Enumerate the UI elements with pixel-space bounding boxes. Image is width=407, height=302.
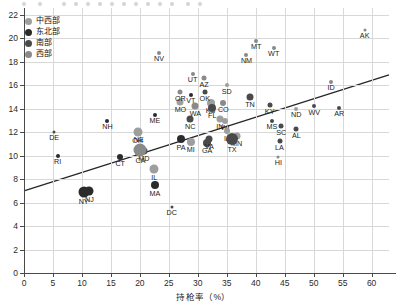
- data-point-label: KY: [265, 108, 275, 115]
- gridline-vertical: [82, 8, 83, 273]
- x-axis-line: [24, 273, 396, 274]
- data-point-label: NJ: [85, 196, 94, 203]
- data-point-label: PA: [176, 144, 185, 151]
- gridline-horizontal: [24, 226, 389, 227]
- data-point-label: VA: [205, 143, 214, 150]
- cropped-legend-dot: [198, 2, 202, 6]
- data-point-label: HI: [275, 159, 282, 166]
- x-axis-tick: [343, 273, 344, 277]
- x-axis-tick: [53, 273, 54, 277]
- y-axis-tick-label: 12: [2, 128, 18, 137]
- data-point-label: TX: [227, 146, 236, 153]
- x-axis-tick: [198, 273, 199, 277]
- data-point-label: IL: [151, 174, 157, 181]
- gridline-vertical: [343, 8, 344, 273]
- plot-area: OHILMOKSNEWIINMIIAMNSDNDNYNJMACTRINHMEVT…: [24, 8, 389, 273]
- data-point-label: ND: [291, 111, 301, 118]
- gridline-vertical: [169, 8, 170, 273]
- cropped-legend-dot: [22, 2, 26, 6]
- legend-marker-icon: [25, 51, 32, 58]
- cropped-legend-dot: [186, 2, 190, 6]
- gridline-vertical: [314, 8, 315, 273]
- legend-item-label: 中西部: [36, 16, 60, 27]
- y-axis-tick-label: 4: [2, 222, 18, 231]
- y-axis-tick-label: 8: [2, 175, 18, 184]
- legend-item-label: 南部: [36, 38, 52, 49]
- gridline-vertical: [111, 8, 112, 273]
- cropped-legend-dot: [110, 2, 114, 6]
- x-axis-tick: [82, 273, 83, 277]
- y-axis-tick: [20, 226, 24, 227]
- data-point-label: MA: [150, 190, 161, 197]
- data-point-label: ID: [327, 84, 334, 91]
- gridline-vertical: [198, 8, 199, 273]
- data-point-label: CA: [135, 157, 145, 164]
- x-axis-tick-label: 50: [309, 279, 318, 288]
- x-axis-tick: [227, 273, 228, 277]
- legend-item-1[interactable]: 东北部: [25, 27, 60, 38]
- gridline-horizontal: [24, 179, 389, 180]
- cropped-legend-dot: [38, 2, 42, 6]
- legend-item-3[interactable]: 西部: [25, 49, 60, 60]
- x-axis-tick-label: 60: [367, 279, 376, 288]
- gridline-horizontal: [24, 132, 389, 133]
- x-axis-tick-label: 45: [280, 279, 289, 288]
- cropped-legend-dot: [170, 2, 174, 6]
- x-axis-tick-label: 0: [22, 279, 27, 288]
- y-axis-tick: [20, 179, 24, 180]
- y-axis-tick-label: 14: [2, 105, 18, 114]
- data-point: [226, 133, 238, 145]
- data-point-label: CT: [115, 160, 125, 167]
- y-axis-tick-label: 2: [2, 245, 18, 254]
- cropped-top-strip: [0, 0, 407, 7]
- y-axis-tick-label: 0: [2, 269, 18, 278]
- y-axis-tick-label: 6: [2, 198, 18, 207]
- y-axis-tick: [20, 250, 24, 251]
- gridline-horizontal: [24, 38, 389, 39]
- x-axis-tick: [169, 273, 170, 277]
- y-axis-tick-label: 18: [2, 58, 18, 67]
- legend-marker-icon: [25, 40, 32, 47]
- y-axis-tick-label: 22: [2, 11, 18, 20]
- gridline-vertical: [285, 8, 286, 273]
- gridline-horizontal: [24, 156, 389, 157]
- x-axis-tick: [256, 273, 257, 277]
- data-point-label: NC: [185, 123, 195, 130]
- data-point-label: OK: [200, 95, 210, 102]
- gridline-horizontal: [24, 15, 389, 16]
- legend-item-2[interactable]: 南部: [25, 38, 60, 49]
- data-point-label: AL: [292, 132, 301, 139]
- data-point-label: ME: [150, 117, 161, 124]
- data-point-label: UT: [188, 76, 198, 83]
- legend-marker-icon: [25, 18, 32, 25]
- data-point-label: AR: [334, 110, 344, 117]
- x-axis-tick: [372, 273, 373, 277]
- legend-item-0[interactable]: 中西部: [25, 16, 60, 27]
- cropped-legend-dot: [122, 2, 126, 6]
- data-point-label: OR: [175, 95, 186, 102]
- data-point-label: MI: [187, 146, 195, 153]
- gridline-horizontal: [24, 62, 389, 63]
- y-axis-tick: [20, 156, 24, 157]
- data-point-label: MS: [267, 123, 278, 130]
- cropped-legend-dot: [62, 2, 66, 6]
- data-point-label: LA: [275, 144, 284, 151]
- cropped-legend-dot: [146, 2, 150, 6]
- data-point-label: SD: [222, 88, 232, 95]
- data-point-label: TN: [245, 101, 255, 108]
- x-axis-tick-label: 25: [164, 279, 173, 288]
- data-point-label: AZ: [200, 81, 209, 88]
- cropped-legend-dot: [74, 2, 78, 6]
- y-axis-tick: [20, 109, 24, 110]
- cropped-legend-dot: [158, 2, 162, 6]
- y-axis-tick: [20, 38, 24, 39]
- x-axis-tick-label: 10: [77, 279, 86, 288]
- cropped-legend-dot: [98, 2, 102, 6]
- cropped-legend-dot: [134, 2, 138, 6]
- x-axis-tick: [24, 273, 25, 277]
- data-point-label: WV: [308, 109, 320, 116]
- data-point-label: MT: [251, 43, 261, 50]
- data-point-label: MO: [175, 106, 187, 113]
- legend: 中西部东北部南部西部: [22, 14, 64, 63]
- cropped-legend-dot: [86, 2, 90, 6]
